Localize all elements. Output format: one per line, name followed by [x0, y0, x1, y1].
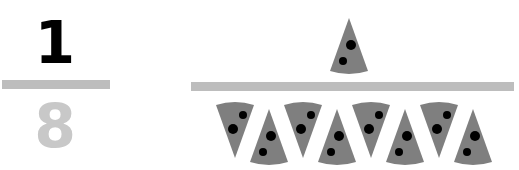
pizza-slice-icon	[284, 102, 322, 158]
pizza-slice-icon	[454, 109, 492, 165]
pizza-slice-icon	[216, 102, 254, 158]
pizza-slice-icon	[420, 102, 458, 158]
pizza-slice-icon	[250, 109, 288, 165]
pizza-slices	[0, 0, 519, 170]
pizza-slice-icon	[352, 102, 390, 158]
pizza-slice-icon	[318, 109, 356, 165]
pizza-slice-icon	[386, 109, 424, 165]
pizza-slice-icon	[330, 18, 368, 74]
